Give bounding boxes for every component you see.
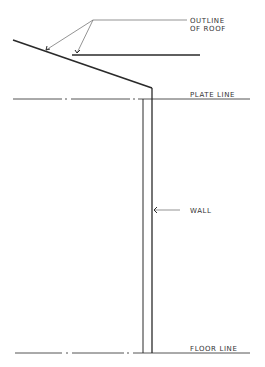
wall-section-diagram: OUTLINE OF ROOF PLATE LINE WALL FLOOR LI…: [0, 0, 265, 367]
label-wall: WALL: [190, 207, 212, 215]
roof-leader: [46, 20, 187, 53]
roof-slope-line: [13, 40, 152, 88]
wall-leader: [154, 207, 180, 213]
label-outline: OUTLINE: [190, 17, 225, 25]
label-plate-line: PLATE LINE: [190, 91, 235, 99]
label-of-roof: OF ROOF: [190, 25, 226, 33]
label-floor-line: FLOOR LINE: [190, 345, 237, 353]
